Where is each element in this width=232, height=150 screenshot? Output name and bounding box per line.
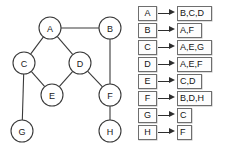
arrow-head [169,43,175,49]
graph-edge-c-e [31,71,45,86]
arrow-right-icon [157,125,177,140]
graph-diagram: ABCDEFGH [0,0,140,150]
adjacency-key-f[interactable]: F [138,91,157,106]
adjacency-key-d[interactable]: D [138,57,157,72]
node-label-e: E [49,91,55,101]
adjacency-key-a[interactable]: A [138,6,157,21]
adjacency-row: DA,E,F [138,56,212,72]
arrow-head [169,111,175,117]
arrow-right-icon [157,91,177,106]
graph-node-g[interactable]: G [11,120,33,142]
graph-node-e[interactable]: E [41,84,63,106]
arrow-head [169,94,175,100]
adjacency-key-h[interactable]: H [138,125,157,140]
adjacency-key-b[interactable]: B [138,23,157,38]
arrow-right-icon [157,23,177,38]
node-label-d: D [77,59,84,69]
adjacency-key-e[interactable]: E [138,74,157,89]
arrow-head [169,26,175,32]
node-label-g: G [18,127,25,137]
adjacency-value-b[interactable]: A,F [177,23,202,38]
graph-edge-d-f [88,71,103,87]
adjacency-row: EC,D [138,73,202,89]
arrow-right-icon [157,108,177,123]
adjacency-value-a[interactable]: B,C,D [177,6,212,21]
adjacency-value-g[interactable]: C [177,108,192,123]
arrow-right-icon [157,57,177,72]
graph-node-c[interactable]: C [13,52,35,74]
adjacency-value-c[interactable]: A,E,G [177,40,212,55]
adjacency-value-f[interactable]: B,D,H [177,91,212,106]
arrow-right-icon [157,40,177,55]
diagram-page: ABCDEFGH AB,C,DBA,FCA,E,GDA,E,FEC,DFB,D,… [0,0,232,150]
graph-node-d[interactable]: D [69,52,91,74]
adjacency-row: BA,F [138,22,202,38]
graph-edge-a-d [57,36,73,54]
graph-node-f[interactable]: F [99,84,121,106]
node-label-h: H [107,127,114,137]
node-label-c: C [21,59,28,69]
arrow-right-icon [157,74,177,89]
adjacency-row: CA,E,G [138,39,212,55]
adjacency-key-c[interactable]: C [138,40,157,55]
arrow-head [169,9,175,15]
graph-node-b[interactable]: B [99,17,121,39]
adjacency-value-e[interactable]: C,D [177,74,202,89]
arrow-head [169,128,175,134]
graph-edge-c-g [22,74,23,120]
graph-edge-layer [22,28,110,120]
node-label-f: F [107,91,113,101]
graph-svg: ABCDEFGH [0,0,140,150]
adjacency-row: HF [138,124,192,140]
adjacency-row: GC [138,107,192,123]
node-label-a: A [47,24,53,34]
graph-node-a[interactable]: A [39,17,61,39]
adjacency-value-d[interactable]: A,E,F [177,57,212,72]
adjacency-value-h[interactable]: F [177,125,192,140]
node-label-b: B [107,24,113,34]
adjacency-list: AB,C,DBA,FCA,E,GDA,E,FEC,DFB,D,HGCHF [138,5,232,147]
arrow-right-icon [157,6,177,21]
graph-edge-a-c [31,37,44,54]
graph-edge-d-e [59,71,73,86]
arrow-head [169,77,175,83]
arrow-head [169,60,175,66]
graph-node-h[interactable]: H [99,120,121,142]
adjacency-row: AB,C,D [138,5,212,21]
adjacency-row: FB,D,H [138,90,212,106]
adjacency-key-g[interactable]: G [138,108,157,123]
